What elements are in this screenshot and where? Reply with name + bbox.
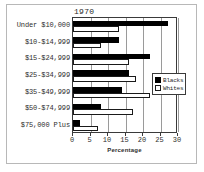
- x-tick-label: 20: [138, 136, 146, 144]
- legend-swatch-icon: [155, 77, 161, 83]
- x-tick-label: 10: [103, 136, 111, 144]
- x-axis-ticks: 051015202530: [72, 133, 177, 147]
- x-tick-label: 30: [173, 136, 181, 144]
- bar-whites: [73, 76, 136, 82]
- x-tick-label: 25: [155, 136, 163, 144]
- legend-label: Blacks: [163, 77, 183, 84]
- x-axis-title: Percentage: [72, 147, 177, 153]
- legend-swatch-icon: [155, 85, 161, 91]
- bar-whites: [73, 109, 133, 115]
- y-axis-label: $35-$49,999: [25, 88, 70, 96]
- bar-whites: [73, 126, 98, 132]
- y-axis-category-labels: Under $10,000$10-$14,999$15-$24,999$25-$…: [7, 17, 71, 133]
- x-tick-label: 5: [87, 136, 91, 144]
- y-axis-label: $50-$74,999: [25, 104, 70, 112]
- y-axis-label: $10-$14,999: [25, 38, 70, 46]
- y-axis-label: $25-$34,999: [25, 71, 70, 79]
- bar-whites: [73, 43, 101, 49]
- bar-whites: [73, 59, 129, 65]
- y-axis-label: $75,000 Plus: [21, 121, 70, 129]
- legend-item[interactable]: Whites: [155, 84, 183, 92]
- y-axis-label: $15-$24,999: [25, 54, 70, 62]
- bar-whites: [73, 93, 150, 99]
- x-tick-label: 0: [70, 136, 74, 144]
- gridline: [143, 18, 144, 132]
- chart-title: 1970: [74, 7, 94, 16]
- y-axis-label: Under $10,000: [17, 21, 70, 29]
- legend-item[interactable]: Blacks: [155, 76, 183, 84]
- bar-whites: [73, 26, 119, 32]
- x-tick-label: 15: [120, 136, 128, 144]
- chart-legend: BlacksWhites: [152, 73, 186, 95]
- legend-label: Whites: [163, 85, 183, 92]
- bar-chart-figure: 1970 Under $10,000$10-$14,999$15-$24,999…: [0, 0, 204, 172]
